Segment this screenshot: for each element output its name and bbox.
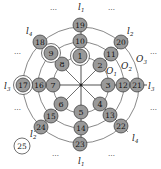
ellipsis: ⋯ [14,106,21,114]
node-label-13: 13 [105,111,115,120]
node-label-23: 23 [75,140,85,149]
node-label-22: 22 [116,122,126,131]
diagram-canvas: ⋯⋯⋯⋯⋯⋯⋯⋯12345678910111213141516171819202… [0,0,161,169]
node-label-24: 24 [36,123,46,132]
ellipsis: ⋯ [108,152,115,160]
ellipsis: ⋯ [108,6,115,14]
node-label-12: 12 [118,81,128,90]
node-label-8: 8 [59,60,64,69]
axis-label: l3 [4,81,11,92]
axis-label: O3 [136,54,147,65]
axis-label: l2 [127,26,134,37]
center-dot [80,84,83,87]
axis-label: O1 [106,66,117,77]
axis-label: l4 [132,133,139,144]
node-label-17: 17 [18,81,28,90]
node-label-14: 14 [76,124,86,133]
node-label-2: 2 [97,61,102,70]
axis-label: l1 [78,2,84,13]
node-label-20: 20 [116,38,126,47]
node-label-11: 11 [106,50,116,59]
ellipsis: ⋯ [150,106,157,114]
node-label-21: 21 [132,81,142,90]
ring-diagram: ⋯⋯⋯⋯⋯⋯⋯⋯12345678910111213141516171819202… [0,0,161,169]
node-label-19: 19 [75,21,85,30]
node-label-25: 25 [17,142,27,151]
axis-label: l3 [148,81,155,92]
node-label-1: 1 [77,52,82,61]
node-label-15: 15 [46,112,56,121]
node-label-18: 18 [35,38,45,47]
node-label-4: 4 [97,100,102,109]
node-label-5: 5 [78,108,83,117]
axis-label: l1 [78,156,84,167]
node-label-16: 16 [34,81,44,90]
node-label-10: 10 [75,37,85,46]
node-label-9: 9 [48,49,53,58]
ellipsis: ⋯ [14,50,21,58]
node-label-3: 3 [105,81,110,90]
axis-label: l4 [26,26,33,37]
node-label-7: 7 [50,81,55,90]
ellipsis: ⋯ [50,6,57,14]
ellipsis: ⋯ [52,152,59,160]
node-label-6: 6 [58,100,63,109]
axis-label: O2 [121,61,132,72]
ellipsis: ⋯ [150,50,157,58]
